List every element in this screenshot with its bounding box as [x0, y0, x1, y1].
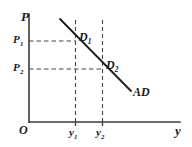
x-tick-label-y1: y1: [69, 127, 77, 141]
y-tick-label-p1: P1: [13, 34, 23, 48]
point-label-d1: D1: [79, 31, 92, 46]
y-axis-label: P: [21, 10, 29, 23]
y1-sub: 1: [74, 133, 77, 140]
x-axis-label: y: [175, 124, 181, 137]
origin-label: O: [19, 124, 28, 136]
y-tick-label-p2: P2: [13, 62, 23, 76]
y2-sub: 2: [101, 133, 104, 140]
p1-base: P: [13, 33, 20, 45]
d1-base: D: [79, 30, 88, 44]
p2-sub: 2: [20, 68, 23, 75]
d1-sub: 1: [88, 37, 92, 46]
d2-sub: 2: [115, 65, 119, 74]
ad-curve-figure: P y O P1 P2 y1 y2 D1 D2 AD: [0, 0, 192, 147]
p1-sub: 1: [20, 40, 23, 47]
point-label-d2: D2: [106, 59, 119, 74]
d2-base: D: [106, 58, 115, 72]
p2-base: P: [13, 61, 20, 73]
ad-curve-line: [60, 19, 131, 91]
curve-label-ad: AD: [133, 86, 150, 98]
x-tick-label-y2: y2: [96, 127, 104, 141]
